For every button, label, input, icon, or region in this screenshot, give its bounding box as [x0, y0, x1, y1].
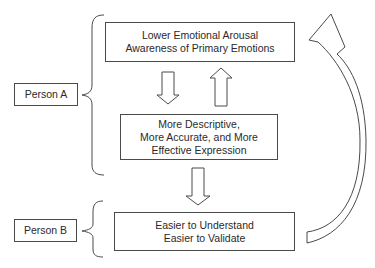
- box-text-line: Lower Emotional Arousal: [142, 29, 258, 42]
- easier-to-validate-box: Easier to Understand Easier to Validate: [114, 212, 295, 251]
- box-text-line: More Descriptive,: [158, 118, 240, 131]
- box-text-line: Easier to Validate: [164, 232, 246, 245]
- curved-feedback-arrow-icon: [307, 14, 366, 243]
- person-a-label: Person A: [25, 88, 68, 101]
- box-text-line: Easier to Understand: [155, 219, 254, 232]
- box-text-line: More Accurate, and More: [140, 131, 258, 144]
- box-text-line: Awareness of Primary Emotions: [125, 42, 274, 55]
- down-arrow-icon: [157, 72, 179, 104]
- effective-expression-box: More Descriptive, More Accurate, and Mor…: [120, 114, 278, 160]
- person-a-brace-icon: [82, 15, 104, 175]
- emotional-arousal-box: Lower Emotional Arousal Awareness of Pri…: [105, 22, 295, 62]
- box-text-line: Effective Expression: [152, 144, 247, 157]
- person-a-label-box: Person A: [14, 83, 78, 106]
- person-b-label-box: Person B: [14, 219, 77, 242]
- person-b-label: Person B: [24, 224, 67, 237]
- up-arrow-icon: [210, 68, 232, 106]
- person-b-brace-icon: [82, 201, 103, 257]
- down-arrow-icon: [186, 168, 210, 205]
